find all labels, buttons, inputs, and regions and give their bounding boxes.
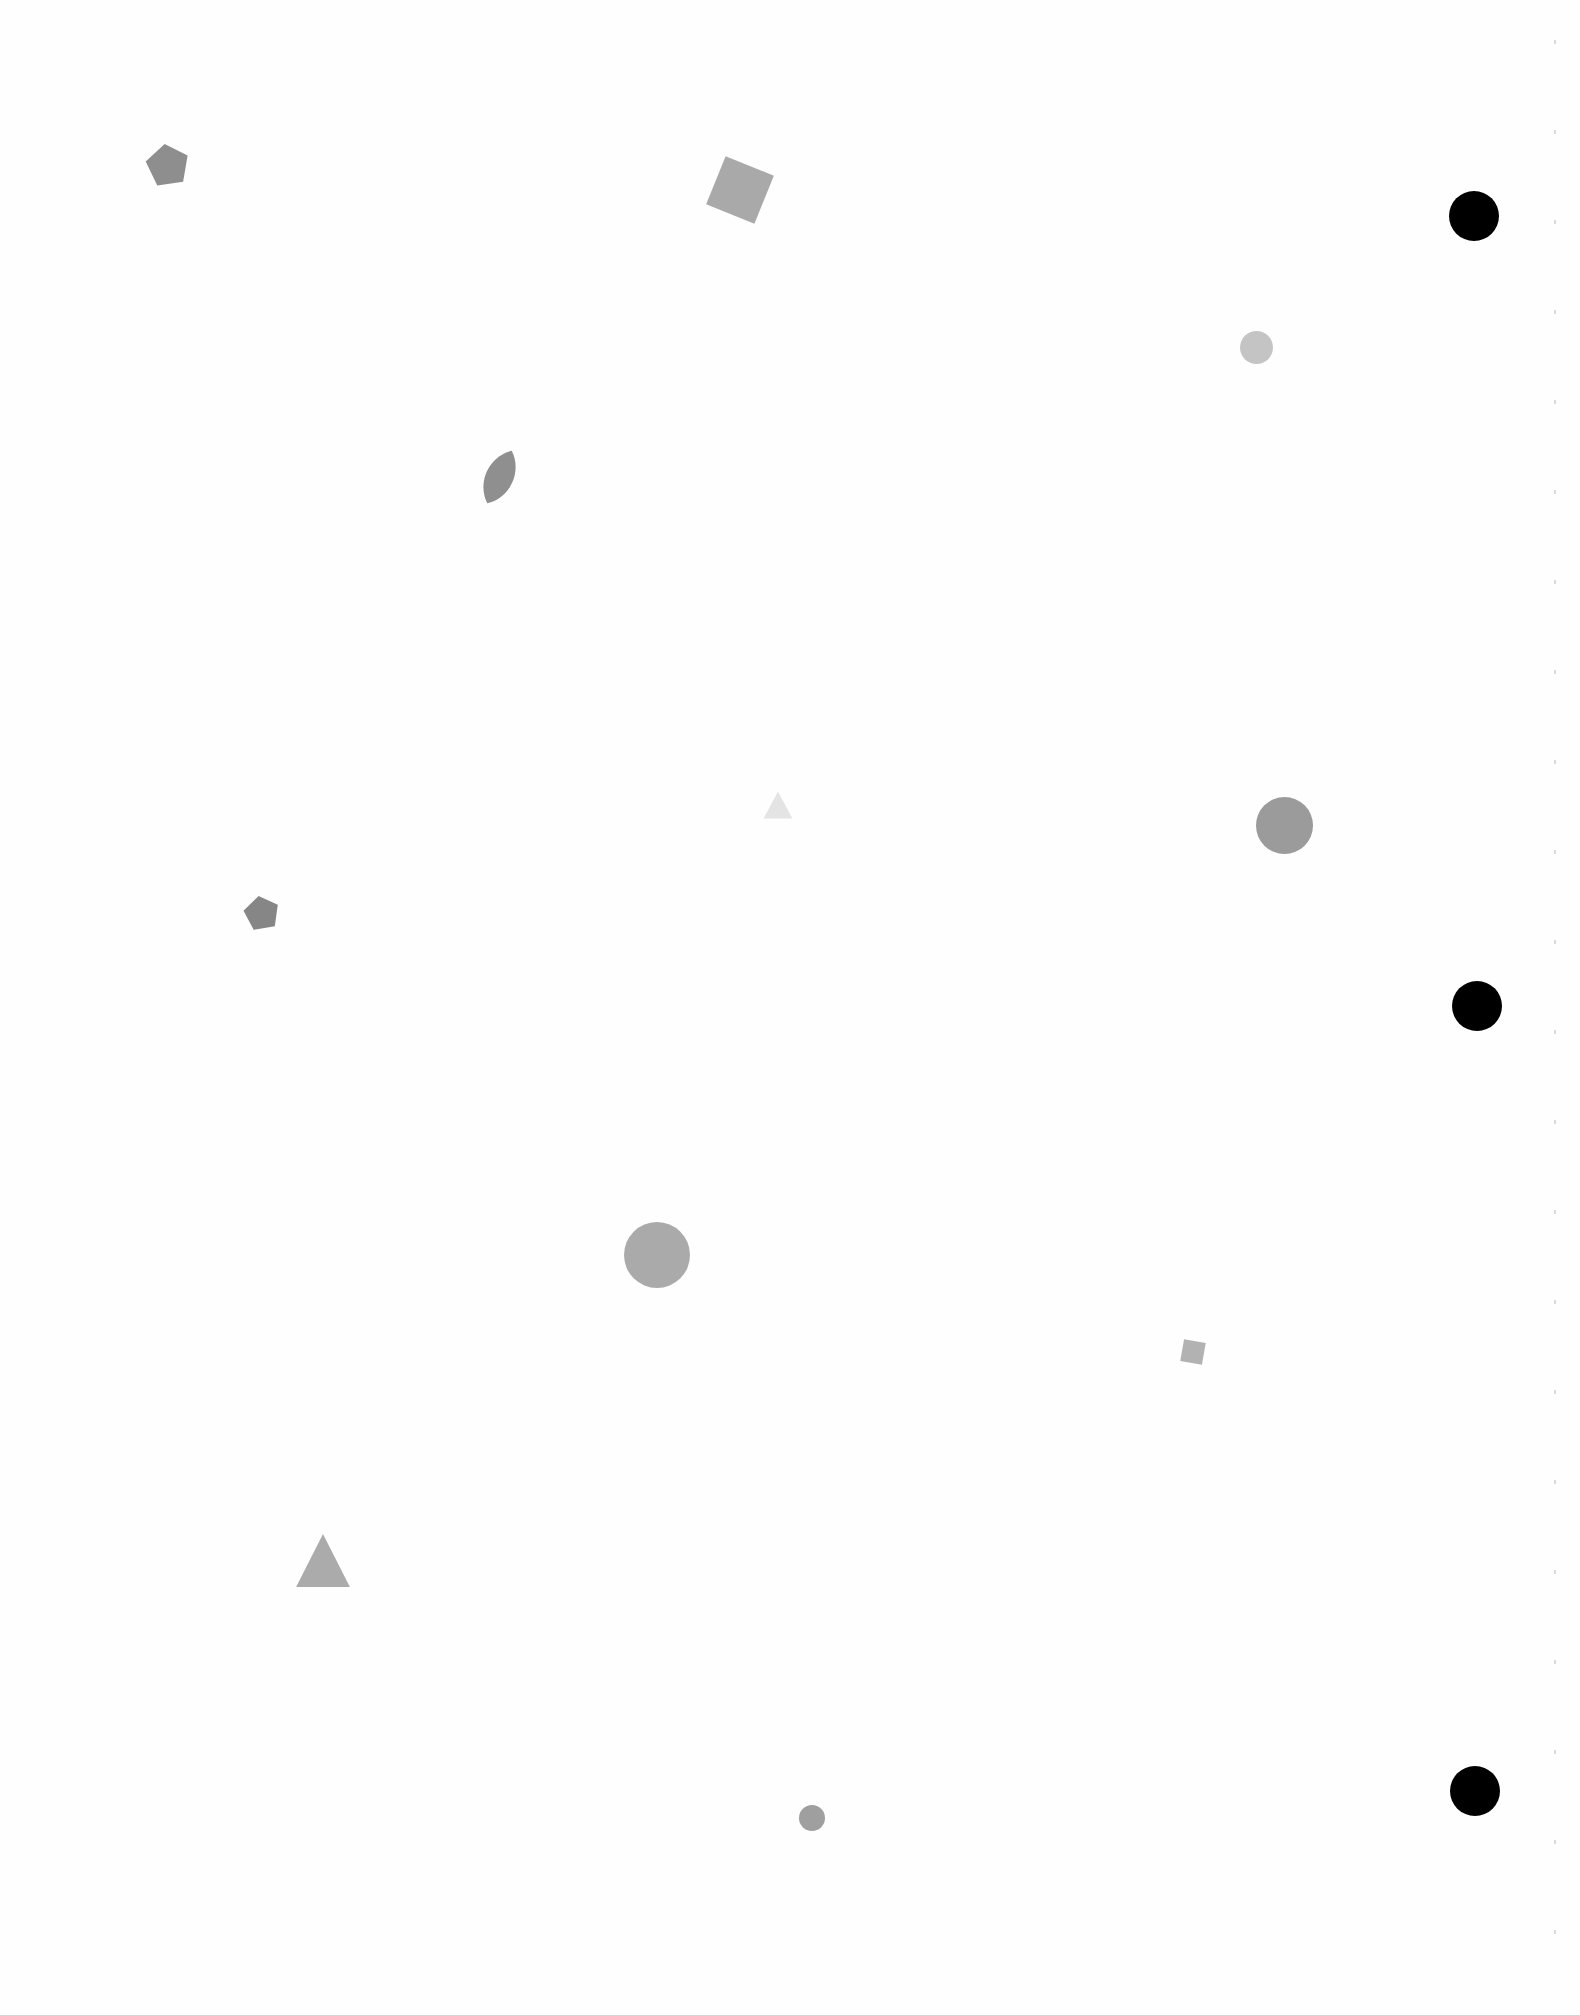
scanned-page <box>0 0 1580 2015</box>
circle-shape <box>1240 331 1273 364</box>
square-shape <box>706 156 774 224</box>
square-shape <box>1180 1339 1205 1364</box>
pentagon-shape <box>240 892 283 933</box>
punch-hole <box>1450 1766 1500 1816</box>
punch-hole <box>1449 191 1499 241</box>
scan-edge-artifacts <box>1554 0 1556 2015</box>
circle-shape <box>624 1222 690 1288</box>
leaf-shape <box>469 442 531 512</box>
triangle-shape <box>295 1533 351 1588</box>
pentagon-shape <box>142 140 193 189</box>
circle-shape <box>1256 797 1313 854</box>
punch-hole <box>1452 981 1502 1031</box>
circle-shape <box>799 1805 825 1831</box>
triangle-shape <box>763 791 793 819</box>
